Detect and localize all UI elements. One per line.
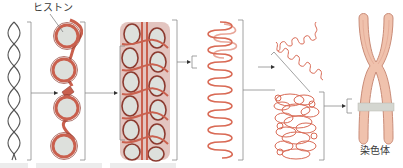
chromosome-band bbox=[358, 103, 394, 111]
strip-segment bbox=[36, 163, 102, 168]
bracket-coiled bbox=[319, 92, 352, 160]
coiled-domain bbox=[274, 22, 323, 159]
bracket-nucleosome bbox=[80, 22, 118, 160]
chromosome-label: 染色体 bbox=[360, 146, 390, 156]
bottom-strip bbox=[0, 163, 403, 168]
chromatin-fiber bbox=[120, 22, 170, 161]
bracket-coil-diagonal bbox=[258, 52, 310, 92]
looped-fiber bbox=[208, 22, 237, 158]
dna-packaging-diagram bbox=[0, 0, 403, 168]
strip-segment bbox=[0, 163, 28, 168]
histone-label: ヒストン bbox=[33, 3, 73, 13]
bracket-chromatin bbox=[172, 20, 197, 160]
bracket-helix bbox=[27, 22, 58, 160]
bracket-looped bbox=[238, 20, 275, 160]
dna-double-helix bbox=[8, 22, 20, 160]
nucleosome-string bbox=[51, 20, 82, 160]
strip-segment bbox=[110, 163, 176, 168]
chromosome bbox=[358, 14, 394, 145]
